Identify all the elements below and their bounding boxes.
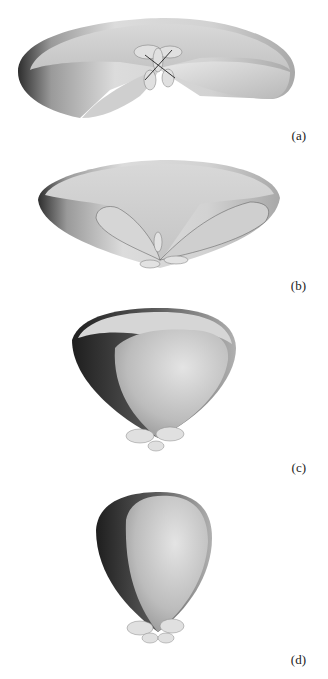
- panel-label-b: (b): [291, 278, 306, 294]
- panel-c: (c): [0, 300, 328, 480]
- panel-label-d: (d): [291, 652, 306, 668]
- panel-b: (b): [0, 150, 328, 300]
- panel-label-a: (a): [292, 128, 306, 144]
- radiation-pattern-a: [0, 0, 328, 150]
- panel-d: (d): [0, 480, 328, 679]
- radiation-pattern-d: [0, 480, 328, 679]
- panel-label-c: (c): [292, 460, 306, 476]
- panel-a: (a): [0, 0, 328, 150]
- radiation-pattern-b: [0, 150, 328, 300]
- radiation-pattern-c: [0, 300, 328, 480]
